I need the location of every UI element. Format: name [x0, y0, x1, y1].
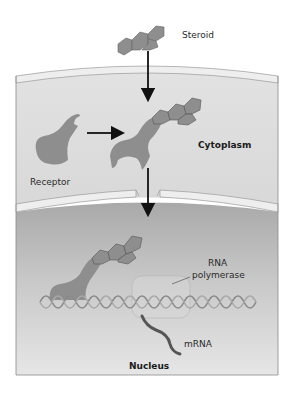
- steroid-label: Steroid: [182, 30, 214, 40]
- receptor-label: Receptor: [30, 177, 71, 187]
- rna-polymerase-label-line1: RNA: [208, 258, 228, 268]
- rna-polymerase-label-line2: polymerase: [192, 270, 245, 280]
- nucleus-label: Nucleus: [129, 361, 169, 371]
- cytoplasm-label: Cytoplasm: [198, 140, 251, 150]
- steroid-signaling-diagram: Steroid Receptor Cytoplasm RNA polymeras…: [0, 0, 295, 394]
- mrna-label: mRNA: [184, 339, 213, 349]
- steroid-molecule-free: [118, 26, 164, 55]
